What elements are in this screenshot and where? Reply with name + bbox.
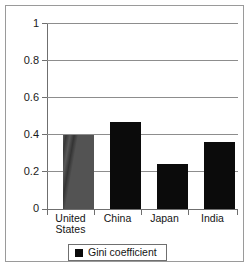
y-axis-labels: 1 0.8 0.6 0.4 0.2 0 bbox=[6, 6, 39, 261]
x-tick-label-japan: Japan bbox=[141, 213, 188, 224]
x-axis-line bbox=[47, 209, 238, 210]
y-tick-label-0.4: 0.4 bbox=[24, 129, 39, 140]
y-tick-label-0.6: 0.6 bbox=[24, 92, 39, 103]
legend-swatch-icon bbox=[75, 249, 83, 257]
gridline-0.8 bbox=[47, 60, 238, 61]
x-tick-label-india: India bbox=[188, 213, 237, 224]
x-tick-label-united-states: United States bbox=[47, 213, 94, 235]
chart-legend: Gini coefficient bbox=[68, 244, 167, 261]
chart-frame: 1 0.8 0.6 0.4 0.2 0 United States China … bbox=[5, 5, 244, 262]
x-tick-label-china: China bbox=[94, 213, 141, 224]
legend-label: Gini coefficient bbox=[88, 247, 157, 258]
bar-japan bbox=[157, 164, 188, 209]
y-tick-label-0.2: 0.2 bbox=[24, 166, 39, 177]
gridline-1 bbox=[47, 23, 238, 24]
bar-india bbox=[204, 142, 235, 209]
y-tick-label-0: 0 bbox=[33, 203, 39, 214]
plot-area bbox=[47, 23, 238, 209]
gridline-0.6 bbox=[47, 97, 238, 98]
y-tick-label-1: 1 bbox=[33, 18, 39, 29]
y-tick-label-0.8: 0.8 bbox=[24, 55, 39, 66]
x-axis-tick bbox=[237, 210, 238, 215]
bar-united-states bbox=[63, 135, 94, 209]
bar-china bbox=[110, 122, 141, 209]
